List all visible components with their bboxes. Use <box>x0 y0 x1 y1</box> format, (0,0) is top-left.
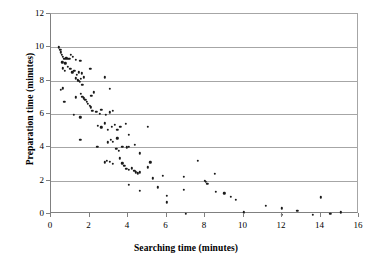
data-point <box>213 173 215 175</box>
data-point <box>64 62 66 64</box>
y-tick-mark-2 <box>46 180 50 181</box>
data-point <box>196 159 198 161</box>
data-point <box>71 55 73 57</box>
data-point <box>109 160 111 162</box>
data-point <box>235 199 237 201</box>
data-point <box>96 124 98 126</box>
data-point <box>83 76 85 78</box>
y-tick-label-0: 0 <box>22 209 44 218</box>
data-point <box>157 186 159 188</box>
x-tick-mark-16 <box>358 213 359 217</box>
data-point <box>112 163 114 165</box>
data-point <box>69 68 71 70</box>
data-point <box>119 125 121 127</box>
data-point <box>162 174 164 176</box>
x-tick-label-14: 14 <box>308 221 332 230</box>
data-point <box>73 69 75 71</box>
data-point <box>109 88 111 90</box>
data-point <box>107 129 109 131</box>
y-tick-label-2: 2 <box>22 175 44 184</box>
data-point <box>264 204 266 206</box>
x-axis-title: Searching time (minutes) <box>0 243 372 253</box>
data-point <box>128 169 130 171</box>
x-tick-label-4: 4 <box>115 221 139 230</box>
data-point <box>59 89 61 91</box>
scatter-chart: Preparation time (minutes) Searching tim… <box>0 0 372 261</box>
data-point <box>90 106 92 108</box>
x-tick-mark-14 <box>320 213 321 217</box>
data-point <box>138 152 140 154</box>
plot-area <box>50 13 358 213</box>
x-tick-label-6: 6 <box>154 221 178 230</box>
data-point <box>75 59 77 61</box>
data-point <box>214 190 216 192</box>
data-point <box>146 166 148 168</box>
data-point <box>91 109 93 111</box>
data-point <box>62 87 64 89</box>
data-point <box>79 59 81 61</box>
data-point <box>296 209 298 211</box>
data-point <box>79 116 81 118</box>
data-point <box>103 161 105 163</box>
data-point <box>146 125 148 127</box>
x-tick-label-10: 10 <box>231 221 255 230</box>
x-tick-mark-2 <box>89 213 90 217</box>
y-tick-mark-4 <box>46 146 50 147</box>
x-tick-label-2: 2 <box>77 221 101 230</box>
y-tick-label-4: 4 <box>22 142 44 151</box>
gridline-y-6 <box>51 114 357 115</box>
data-point <box>68 58 70 60</box>
data-point <box>79 139 81 141</box>
data-point <box>118 149 120 151</box>
data-point <box>119 157 121 159</box>
data-point <box>89 68 91 70</box>
x-tick-mark-8 <box>204 213 205 217</box>
data-point <box>152 177 154 179</box>
x-tick-mark-10 <box>243 213 244 217</box>
data-point <box>123 164 125 166</box>
data-point <box>116 137 118 139</box>
gridline-y-8 <box>51 81 357 82</box>
gridline-y-4 <box>51 147 357 148</box>
data-point <box>128 134 130 136</box>
data-point <box>107 141 109 143</box>
data-point <box>110 125 112 127</box>
data-point <box>281 207 283 209</box>
data-point <box>134 144 136 146</box>
data-point <box>165 194 167 196</box>
data-point <box>63 100 65 102</box>
data-point <box>139 171 141 173</box>
data-point <box>100 126 102 128</box>
data-point <box>71 71 73 73</box>
y-tick-mark-12 <box>46 13 50 14</box>
data-point <box>183 189 185 191</box>
data-point <box>340 211 342 213</box>
data-point <box>223 192 225 194</box>
data-point <box>90 94 92 96</box>
data-point <box>103 76 105 78</box>
data-point <box>185 213 187 215</box>
gridline-y-10 <box>51 47 357 48</box>
data-point <box>183 175 185 177</box>
data-point <box>103 122 105 124</box>
x-tick-mark-4 <box>127 213 128 217</box>
x-tick-label-12: 12 <box>269 221 293 230</box>
data-point <box>81 72 83 74</box>
x-tick-label-8: 8 <box>192 221 216 230</box>
data-point <box>116 129 118 131</box>
data-point <box>95 110 97 112</box>
x-tick-mark-6 <box>166 213 167 217</box>
data-point <box>113 124 115 126</box>
data-point <box>230 195 232 197</box>
data-point <box>319 196 321 198</box>
x-tick-label-16: 16 <box>346 221 370 230</box>
data-point <box>75 96 77 98</box>
y-tick-label-8: 8 <box>22 75 44 84</box>
x-tick-mark-0 <box>50 213 51 217</box>
y-tick-mark-10 <box>46 46 50 47</box>
y-tick-label-6: 6 <box>22 109 44 118</box>
data-point <box>112 140 114 142</box>
x-tick-label-0: 0 <box>38 221 62 230</box>
y-tick-mark-6 <box>46 113 50 114</box>
data-point <box>206 183 208 185</box>
